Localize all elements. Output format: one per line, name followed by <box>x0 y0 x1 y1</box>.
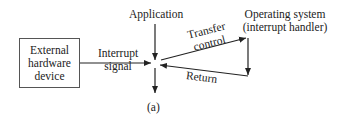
external-device-label: External hardware device <box>28 44 71 83</box>
os-label: Operating system (interrupt handler) <box>230 8 340 34</box>
external-device-line-2: hardware <box>28 57 71 69</box>
interrupt-label-line-2: signal <box>104 60 131 72</box>
figure-caption: (a) <box>147 101 160 114</box>
external-device-line-1: External <box>30 44 69 56</box>
os-label-line-2: (interrupt handler) <box>243 21 328 33</box>
external-device-line-3: device <box>34 70 64 82</box>
os-label-line-1: Operating system <box>245 8 326 20</box>
external-hardware-device-box: External hardware device <box>19 38 80 88</box>
application-label: Application <box>129 8 183 21</box>
interrupt-signal-label: Interrupt signal <box>88 47 148 73</box>
interrupt-label-line-1: Interrupt <box>98 47 138 59</box>
